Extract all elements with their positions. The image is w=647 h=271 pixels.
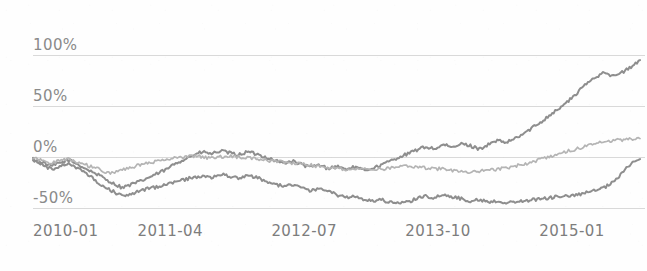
y-tick-label: 0% [33,138,58,156]
x-tick-label: 2012-07 [271,222,336,240]
x-tick-label: 2011-04 [137,222,202,240]
series-group [33,60,640,204]
series-line-3 [33,159,640,204]
y-tick-label: -50% [33,189,73,207]
line-chart-figure: 100%50%0%-50% 2010-012011-042012-072013-… [0,0,647,271]
x-tick-label: 2015-01 [539,222,604,240]
series-line-2 [33,138,640,174]
x-tick-label: 2013-10 [405,222,470,240]
y-tick-label: 50% [33,87,68,105]
y-tick-label: 100% [33,36,77,54]
x-tick-label: 2010-01 [33,222,98,240]
